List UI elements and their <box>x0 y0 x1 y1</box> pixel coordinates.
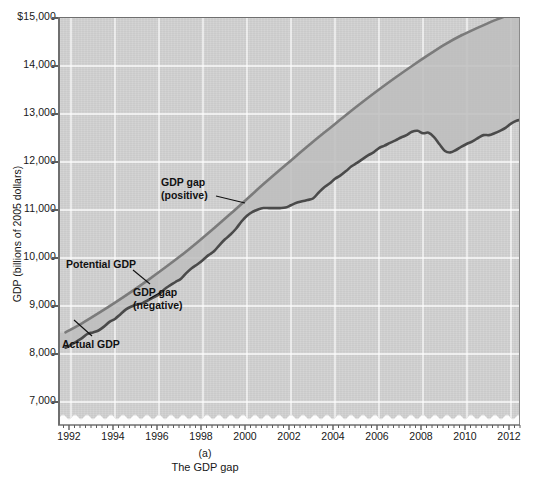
plot-area <box>58 17 520 425</box>
y-tick-mark-8000 <box>52 353 58 355</box>
y-tick-mark-7000 <box>52 401 58 403</box>
annotation-gap-positive-line1: GDP gap <box>161 176 208 189</box>
gdp-gap-figure: GDP gap (positive) Potential GDP GDP gap… <box>0 0 534 485</box>
plot-canvas <box>60 18 520 425</box>
y-tick-mark-9000 <box>52 305 58 307</box>
gap-shading <box>60 18 520 348</box>
annotation-gap-negative-line1: GDP gap <box>133 286 183 299</box>
annotation-gap-positive: GDP gap (positive) <box>161 176 208 201</box>
y-tick-mark-12000 <box>52 161 58 163</box>
panel-label: (a) <box>0 447 534 459</box>
figure-caption: The GDP gap <box>0 461 534 473</box>
y-tick-label-7000: 7,000 <box>2 395 56 406</box>
figure-caption-text: The GDP gap <box>171 461 238 473</box>
y-tick-mark-13000 <box>52 113 58 115</box>
y-tick-mark-10000 <box>52 257 58 259</box>
y-tick-label-14000: 14,000 <box>2 59 56 70</box>
y-tick-mark-15000 <box>52 17 58 19</box>
y-tick-mark-11000 <box>52 209 58 211</box>
y-tick-label-8000: 8,000 <box>2 347 56 358</box>
panel-label-text: (a) <box>199 447 212 459</box>
y-tick-label-13000: 13,000 <box>2 107 56 118</box>
annotation-gap-positive-line2: (positive) <box>161 189 208 202</box>
y-axis-ticks: $15,00014,00013,00012,00011,00010,0009,0… <box>0 0 56 485</box>
y-axis-title: GDP (billions of 2005 dollars) <box>11 129 23 339</box>
annotation-actual-gdp: Actual GDP <box>62 338 120 351</box>
y-tick-label-15000: $15,000 <box>2 11 56 22</box>
y-tick-mark-14000 <box>52 65 58 67</box>
annotation-potential-gdp: Potential GDP <box>66 258 136 271</box>
annotation-gap-negative-line2: (negative) <box>133 299 183 312</box>
x-tick-label-2012: 2012 <box>479 430 534 442</box>
annotation-gap-negative: GDP gap (negative) <box>133 286 183 311</box>
